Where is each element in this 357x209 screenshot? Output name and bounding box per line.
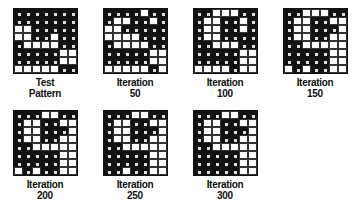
grid-cell	[113, 9, 122, 17]
grid-cell	[14, 33, 23, 41]
grid-cell	[239, 33, 248, 41]
grid-cell	[239, 25, 248, 33]
grid-cell	[203, 127, 212, 135]
grid-cell	[149, 41, 158, 49]
grid-cell	[203, 41, 212, 49]
grid-cell	[104, 17, 113, 25]
grid-cell	[50, 49, 59, 57]
grid-cell	[230, 135, 239, 143]
pattern-grid	[103, 110, 168, 176]
grid-cell	[59, 111, 68, 119]
grid-cell	[320, 49, 329, 57]
grid-cell	[212, 17, 221, 25]
grid-cell	[68, 119, 77, 127]
grid-cell	[221, 143, 230, 151]
grid-cell	[230, 65, 239, 73]
grid-cell	[23, 135, 32, 143]
grid-cell	[131, 151, 140, 159]
grid-cell	[320, 17, 329, 25]
grid-cell	[149, 111, 158, 119]
panel-label: Iteration300	[180, 179, 270, 201]
grid-cell	[212, 151, 221, 159]
grid-cell	[23, 167, 32, 175]
grid-cell	[203, 49, 212, 57]
grid-cell	[32, 25, 41, 33]
grid-cell	[194, 33, 203, 41]
grid-cell	[194, 25, 203, 33]
grid-cell	[14, 159, 23, 167]
grid-cell	[104, 159, 113, 167]
grid-cell	[14, 17, 23, 25]
grid-cell	[68, 25, 77, 33]
grid-cell	[149, 25, 158, 33]
grid-cell	[221, 57, 230, 65]
grid-cell	[14, 111, 23, 119]
grid-cell	[131, 119, 140, 127]
grid-cell	[158, 9, 167, 17]
grid-cell	[149, 49, 158, 57]
grid-cell	[59, 25, 68, 33]
grid-cell	[203, 57, 212, 65]
grid-cell	[293, 41, 302, 49]
grid-cell	[230, 111, 239, 119]
grid-cell	[32, 135, 41, 143]
grid-cell	[68, 9, 77, 17]
grid-cell	[230, 33, 239, 41]
grid-cell	[23, 33, 32, 41]
grid-cell	[113, 143, 122, 151]
grid-cell	[14, 119, 23, 127]
grid-cell	[32, 49, 41, 57]
grid-cell	[149, 167, 158, 175]
grid-cell	[41, 65, 50, 73]
grid-cell	[194, 127, 203, 135]
grid-cell	[50, 119, 59, 127]
grid-cell	[23, 65, 32, 73]
grid-cell	[338, 9, 347, 17]
grid-cell	[104, 25, 113, 33]
grid-cell	[14, 49, 23, 57]
grid-cell	[140, 159, 149, 167]
grid-cell	[23, 57, 32, 65]
grid-cell	[248, 127, 257, 135]
grid-cell	[248, 57, 257, 65]
grid-cell	[113, 111, 122, 119]
grid-cell	[149, 17, 158, 25]
grid-cell	[50, 143, 59, 151]
grid-cell	[50, 127, 59, 135]
grid-cell	[23, 111, 32, 119]
panel-label: Iteration50	[90, 77, 180, 99]
grid-cell	[329, 57, 338, 65]
grid-cell	[212, 65, 221, 73]
grid-cell	[113, 65, 122, 73]
grid-cell	[221, 135, 230, 143]
grid-cell	[203, 151, 212, 159]
grid-cell	[113, 17, 122, 25]
grid-cell	[239, 135, 248, 143]
grid-cell	[59, 57, 68, 65]
grid-cell	[131, 25, 140, 33]
grid-cell	[104, 41, 113, 49]
grid-cell	[239, 159, 248, 167]
grid-cell	[68, 151, 77, 159]
grid-cell	[311, 33, 320, 41]
grid-cell	[203, 119, 212, 127]
grid-cell	[329, 17, 338, 25]
grid-cell	[50, 151, 59, 159]
grid-cell	[158, 49, 167, 57]
grid-cell	[221, 17, 230, 25]
grid-cell	[221, 33, 230, 41]
grid-cell	[194, 135, 203, 143]
grid-cell	[140, 33, 149, 41]
grid-cell	[239, 49, 248, 57]
grid-cell	[59, 143, 68, 151]
grid-cell	[239, 65, 248, 73]
grid-cell	[113, 25, 122, 33]
grid-cell	[104, 135, 113, 143]
grid-cell	[248, 49, 257, 57]
grid-cell	[140, 119, 149, 127]
grid-cell	[320, 9, 329, 17]
grid-cell	[14, 167, 23, 175]
grid-cell	[131, 135, 140, 143]
grid-cell	[41, 143, 50, 151]
grid-cell	[14, 151, 23, 159]
